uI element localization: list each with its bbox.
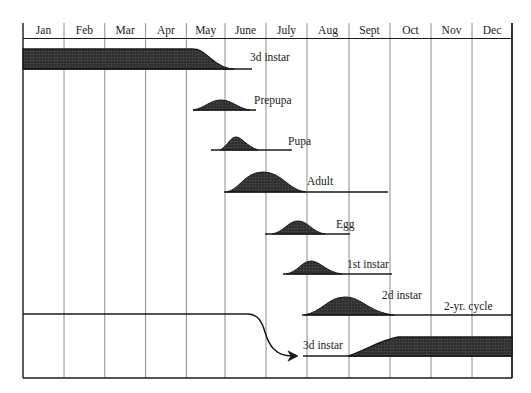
month-label-july: July bbox=[277, 24, 296, 37]
month-header: Jan Feb Mar Apr May June July Aug Sept O… bbox=[36, 24, 501, 37]
month-label-jan: Jan bbox=[36, 24, 52, 36]
life-cycle-chart: Jan Feb Mar Apr May June July Aug Sept O… bbox=[0, 0, 531, 393]
stage-first-instar: 1st instar bbox=[283, 258, 392, 274]
month-label-apr: Apr bbox=[157, 24, 175, 37]
stage-third-instar-top: 3d instar bbox=[23, 49, 290, 69]
label-third-instar-top: 3d instar bbox=[250, 51, 290, 63]
label-two-year-cycle: 2-yr. cycle bbox=[444, 300, 493, 313]
chart-frame bbox=[23, 23, 512, 378]
stage-third-instar-bottom: 3d instar bbox=[303, 337, 512, 356]
month-label-nov: Nov bbox=[442, 24, 462, 36]
month-label-may: May bbox=[195, 24, 216, 37]
label-prepupa: Prepupa bbox=[254, 94, 292, 107]
stage-adult: Adult bbox=[224, 172, 388, 192]
month-gridlines bbox=[64, 23, 472, 378]
month-label-oct: Oct bbox=[402, 24, 419, 36]
label-adult: Adult bbox=[307, 175, 334, 187]
stage-second-instar: 2d instar 2-yr. cycle bbox=[302, 289, 512, 315]
stage-pupa: Pupa bbox=[211, 135, 311, 150]
month-label-mar: Mar bbox=[116, 24, 135, 36]
month-label-aug: Aug bbox=[318, 24, 338, 37]
stage-prepupa: Prepupa bbox=[193, 94, 292, 110]
label-third-instar-bottom: 3d instar bbox=[303, 339, 343, 351]
label-pupa: Pupa bbox=[288, 135, 311, 148]
month-label-sept: Sept bbox=[359, 24, 380, 37]
label-egg: Egg bbox=[336, 218, 355, 231]
label-first-instar: 1st instar bbox=[347, 258, 389, 270]
month-label-june: June bbox=[235, 24, 256, 36]
month-label-dec: Dec bbox=[483, 24, 502, 36]
month-label-feb: Feb bbox=[76, 24, 94, 36]
label-second-instar: 2d instar bbox=[382, 289, 422, 301]
stage-egg: Egg bbox=[265, 218, 355, 234]
